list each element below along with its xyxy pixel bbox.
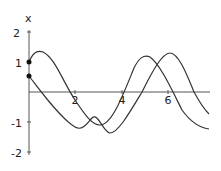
y-tick-2: 2: [13, 27, 20, 40]
curve-2: [29, 53, 209, 133]
chart: x 2 1 -1 -2 2 4 6: [0, 0, 221, 171]
y-tick-m2: -2: [11, 147, 22, 160]
y-axis-label: x: [25, 12, 32, 25]
x-tick-6: 6: [165, 94, 172, 107]
initial-point-1: [27, 60, 32, 65]
plot-area: x 2 1 -1 -2 2 4 6: [0, 0, 221, 171]
curve-1: [29, 51, 209, 129]
y-tick-m1: -1: [11, 117, 22, 130]
y-tick-1: 1: [15, 57, 22, 70]
initial-point-2: [27, 74, 32, 79]
